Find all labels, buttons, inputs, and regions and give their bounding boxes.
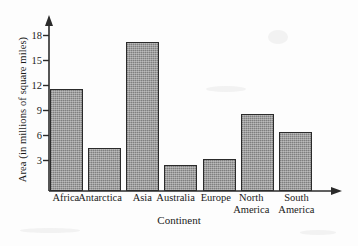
bar-series	[50, 18, 312, 191]
scan-artifact	[206, 86, 246, 92]
y-axis-ticks	[43, 36, 49, 161]
x-tick-label-north-america: North America	[229, 192, 274, 222]
bar-south-america	[279, 132, 312, 191]
bar-europe	[203, 159, 236, 191]
scan-artifact	[20, 228, 80, 233]
plot-area	[50, 18, 312, 191]
scan-artifact	[300, 230, 336, 235]
bar-asia	[126, 42, 159, 191]
bar-chart: Area (in millions of square miles) Conti…	[0, 0, 358, 246]
bar-africa	[50, 89, 83, 191]
x-axis-tick-labels: Africa Antarctica Asia Australia Europe …	[50, 192, 312, 222]
x-axis-arrowhead	[331, 187, 342, 195]
scan-artifact	[268, 30, 288, 44]
x-tick-label-south-america: South America	[274, 192, 319, 222]
bar-antarctica	[88, 148, 121, 191]
bar-north-america	[241, 114, 274, 191]
bar-australia	[164, 165, 197, 191]
x-tick-label-antarctica: Antarctica	[74, 192, 127, 222]
x-tick-label-australia: Australia	[151, 192, 200, 222]
